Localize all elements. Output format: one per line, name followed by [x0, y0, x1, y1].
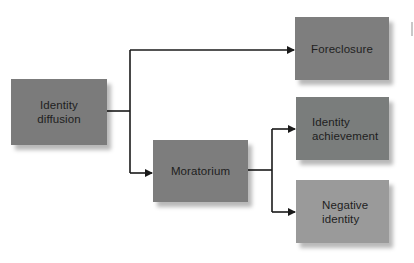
node-label: Identity diffusion [37, 98, 81, 126]
scan-artifact [411, 22, 413, 36]
node-label: Foreclosure [311, 42, 373, 56]
node-label: Negative identity [322, 198, 368, 226]
node-negative-identity: Negative identity [296, 180, 389, 243]
node-identity-diffusion: Identity diffusion [11, 79, 107, 145]
node-foreclosure: Foreclosure [295, 17, 389, 80]
node-moratorium: Moratorium [153, 140, 248, 202]
node-label: Identity achievement [312, 115, 378, 143]
node-label: Moratorium [171, 164, 230, 178]
node-identity-achievement: Identity achievement [296, 97, 389, 160]
